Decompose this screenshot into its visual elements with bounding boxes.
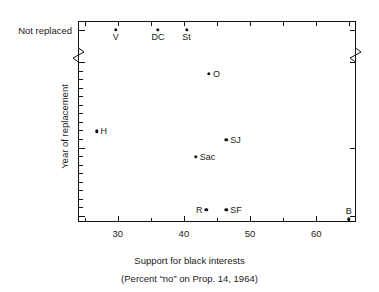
plot-area: VDCStOHSJSacRSFB bbox=[78, 21, 356, 222]
x-tick-top bbox=[283, 22, 284, 26]
x-tick-minor bbox=[151, 218, 152, 222]
x-tick-top bbox=[250, 22, 251, 26]
y-tick-minor bbox=[79, 173, 83, 174]
data-point bbox=[194, 155, 197, 158]
y-tick-minor bbox=[79, 199, 83, 200]
x-axis-title: Support for black interests bbox=[0, 255, 379, 266]
y-axis-title: Year of replacement bbox=[59, 47, 70, 207]
x-tick-top bbox=[151, 22, 152, 26]
y-tick-minor bbox=[79, 105, 83, 106]
data-point-label: R bbox=[196, 205, 203, 215]
y-axis-break-right-icon bbox=[349, 41, 362, 67]
data-point-label: DC bbox=[152, 32, 165, 42]
y-tick-minor bbox=[79, 190, 83, 191]
data-point-label: V bbox=[113, 32, 119, 42]
data-point bbox=[205, 208, 208, 211]
x-tick-major bbox=[118, 216, 119, 222]
y-tick-minor bbox=[79, 79, 83, 80]
data-point-label: B bbox=[346, 206, 352, 216]
x-tick-label: 30 bbox=[112, 228, 123, 239]
x-tick-minor bbox=[217, 218, 218, 222]
x-axis-subtitle: (Percent “no” on Prop. 14, 1964) bbox=[0, 273, 379, 284]
y-tick-label-not-replaced: Not replaced bbox=[18, 25, 72, 36]
y-tick-minor bbox=[79, 139, 83, 140]
data-point-label: SF bbox=[230, 205, 242, 215]
y-tick-minor bbox=[79, 96, 83, 97]
x-tick-label: 40 bbox=[179, 228, 190, 239]
x-tick-top bbox=[184, 22, 185, 26]
data-point-label: St bbox=[182, 32, 191, 42]
y-axis-break-left-icon bbox=[72, 41, 85, 67]
data-point-label: O bbox=[213, 69, 220, 79]
y-tick-minor bbox=[79, 122, 83, 123]
x-tick-major bbox=[250, 216, 251, 222]
y-tick-minor bbox=[79, 71, 83, 72]
data-point bbox=[225, 138, 228, 141]
x-tick-label: 50 bbox=[245, 228, 256, 239]
y-tick-not-replaced-right bbox=[350, 30, 355, 31]
y-tick-minor bbox=[79, 165, 83, 166]
y-tick-not-replaced bbox=[79, 30, 85, 31]
x-tick-minor bbox=[85, 218, 86, 222]
y-tick-major bbox=[79, 216, 85, 217]
x-tick-top bbox=[118, 22, 119, 26]
data-point bbox=[95, 130, 98, 133]
data-point-label: SJ bbox=[230, 135, 241, 145]
y-tick-minor bbox=[79, 182, 83, 183]
data-point-label: H bbox=[101, 126, 108, 136]
x-tick-top bbox=[316, 22, 317, 26]
x-tick-label: 60 bbox=[311, 228, 322, 239]
chart-title: REPLACEMENT AND REPLACEMENT bbox=[0, 0, 379, 3]
y-tick-minor bbox=[79, 88, 83, 89]
data-point-label: Sac bbox=[200, 152, 216, 162]
x-tick-top bbox=[85, 22, 86, 26]
x-tick-top bbox=[349, 22, 350, 26]
x-tick-top bbox=[217, 22, 218, 26]
x-tick-major bbox=[316, 216, 317, 222]
y-tick-minor bbox=[79, 130, 83, 131]
scatter-chart-figure: REPLACEMENT AND REPLACEMENT Year of repl… bbox=[0, 0, 379, 292]
data-point bbox=[225, 208, 228, 211]
y-tick-major bbox=[79, 148, 85, 149]
y-tick-right bbox=[350, 148, 355, 149]
y-tick-minor bbox=[79, 156, 83, 157]
data-point bbox=[207, 72, 210, 75]
y-tick-minor bbox=[79, 113, 83, 114]
y-tick-minor bbox=[79, 207, 83, 208]
x-tick-minor bbox=[283, 218, 284, 222]
x-tick-major bbox=[184, 216, 185, 222]
